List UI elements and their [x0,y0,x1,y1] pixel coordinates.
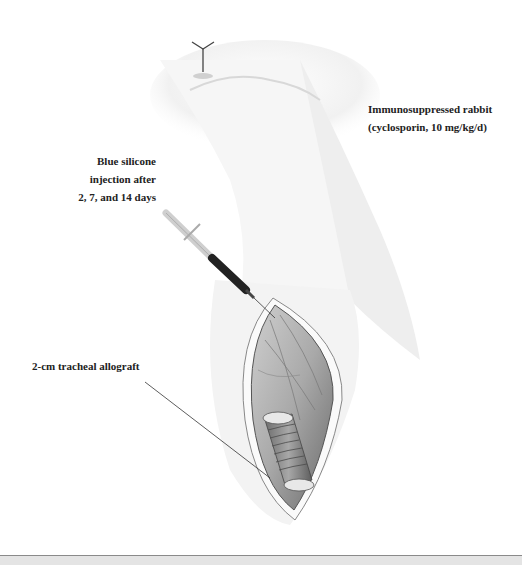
rabbit-label: Immunosuppressed rabbit (cyclosporin, 10… [368,100,492,136]
injection-label-line2: injection after [52,170,156,188]
injection-label: Blue silicone injection after 2, 7, and … [52,152,156,206]
injection-label-line1: Blue silicone [52,152,156,170]
allograft-label-line1: 2-cm tracheal allograft [32,357,140,375]
rabbit-label-line1: Immunosuppressed rabbit [368,100,492,118]
injection-label-line3: 2, 7, and 14 days [52,188,156,206]
rabbit-label-line2: (cyclosporin, 10 mg/kg/d) [368,118,492,136]
bottom-divider-bar [0,555,522,565]
allograft-label: 2-cm tracheal allograft [32,357,140,375]
illustration-drawing [0,0,522,555]
surgical-illustration: Immunosuppressed rabbit (cyclosporin, 10… [0,0,522,555]
